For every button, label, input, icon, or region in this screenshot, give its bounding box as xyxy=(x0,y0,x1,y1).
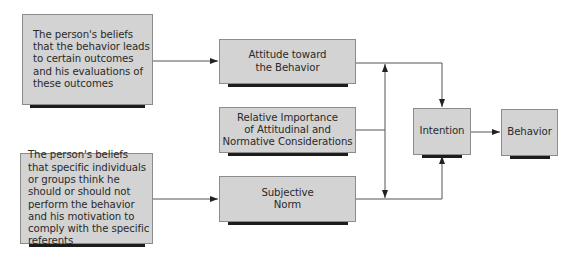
node-shadow xyxy=(228,84,348,87)
node-norm-line2: Norm xyxy=(261,199,313,211)
node-relative-importance: Relative Importance of Attitudinal and N… xyxy=(219,107,356,153)
node-relative-line2: of Attitudinal and xyxy=(223,124,353,136)
node-norm-line1: Subjective xyxy=(261,187,313,199)
node-shadow xyxy=(29,244,145,247)
node-beliefs-outcomes: The person's beliefs that the behavior l… xyxy=(22,14,153,105)
node-relative-line1: Relative Importance xyxy=(223,112,353,124)
node-attitude: Attitude toward the Behavior xyxy=(219,39,356,84)
node-behavior: Behavior xyxy=(501,109,558,156)
node-beliefs-outcomes-label: The person's beliefs that the behavior l… xyxy=(23,29,151,90)
node-behavior-label: Behavior xyxy=(507,126,551,138)
node-shadow xyxy=(510,156,550,159)
node-intention: Intention xyxy=(413,108,471,155)
node-attitude-line1: Attitude toward xyxy=(249,49,327,61)
node-beliefs-referents: The person's beliefs that specific indiv… xyxy=(20,153,153,244)
arrow-attitude-to-intention xyxy=(356,63,442,107)
node-shadow xyxy=(422,155,462,158)
node-attitude-line2: the Behavior xyxy=(249,62,327,74)
node-subjective-norm: Subjective Norm xyxy=(219,176,356,222)
node-shadow xyxy=(30,105,145,108)
node-shadow xyxy=(228,222,348,225)
node-beliefs-referents-label: The person's beliefs that specific indiv… xyxy=(21,149,150,247)
node-intention-label: Intention xyxy=(420,125,465,137)
arrow-norm-to-intention xyxy=(356,156,442,199)
node-relative-line3: Normative Considerations xyxy=(223,136,353,148)
node-shadow xyxy=(228,153,348,156)
